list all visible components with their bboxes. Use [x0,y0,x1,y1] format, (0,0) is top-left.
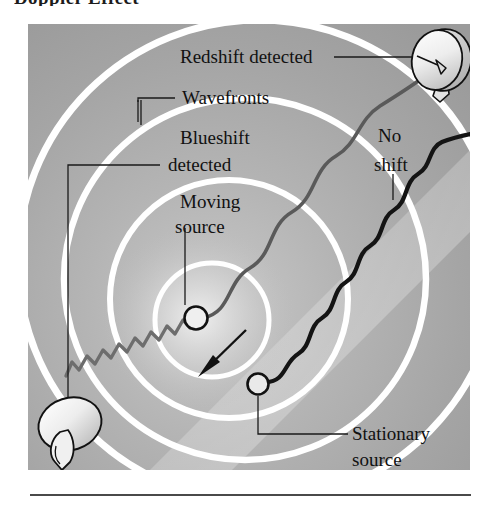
doppler-effect-figure: Doppler Effect [0,0,501,508]
doppler-diagram-svg: Redshift detected Wavefronts Blueshift d… [0,0,501,508]
page-title: Doppler Effect [14,0,314,6]
figure-title-clipped: Doppler Effect [14,0,314,6]
